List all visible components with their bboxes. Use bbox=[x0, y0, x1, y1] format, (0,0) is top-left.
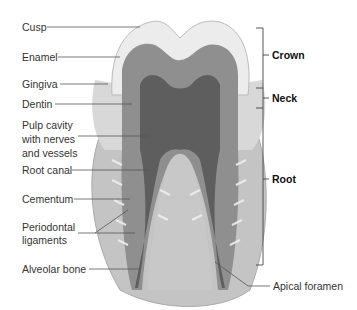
label-cementum: Cementum bbox=[22, 193, 73, 205]
label-apical-foramen: Apical foramen bbox=[273, 280, 343, 292]
region-root: Root bbox=[272, 173, 296, 185]
label-enamel: Enamel bbox=[22, 51, 58, 63]
region-crown: Crown bbox=[272, 49, 305, 61]
label-root-canal: Root canal bbox=[22, 164, 72, 176]
label-dentin: Dentin bbox=[22, 98, 52, 110]
region-neck: Neck bbox=[272, 92, 297, 104]
label-alveolar-bone: Alveolar bone bbox=[22, 263, 86, 275]
label-cusp: Cusp bbox=[22, 21, 47, 33]
label-pulp-cavity: Pulp cavity with nerves and vessels bbox=[22, 119, 77, 159]
label-gingiva: Gingiva bbox=[22, 78, 58, 90]
label-periodontal-ligaments: Periodontal ligaments bbox=[22, 221, 75, 246]
